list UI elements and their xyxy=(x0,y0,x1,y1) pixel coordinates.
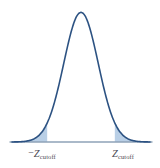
minus-sign: − xyxy=(28,147,34,158)
normal-distribution-figure: −Zcutoff Zcutoff xyxy=(0,0,160,168)
right-cutoff-label: Zcutoff xyxy=(112,149,134,160)
cutoff-subscript-right: cutoff xyxy=(118,153,134,160)
z-symbol-left: Z xyxy=(34,148,40,159)
normal-curve-line xyxy=(12,12,150,142)
distribution-plot xyxy=(0,0,160,168)
cutoff-subscript-left: cutoff xyxy=(40,153,56,160)
left-cutoff-label: −Zcutoff xyxy=(28,149,56,160)
